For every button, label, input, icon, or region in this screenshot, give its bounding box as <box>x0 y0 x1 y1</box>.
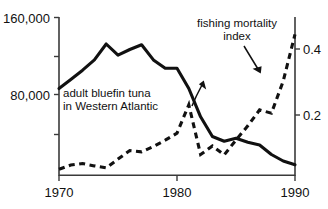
annotation-bluefin-tuna-line1: adult bluefin tuna <box>63 87 151 99</box>
x-axis-label-1990: 1990 <box>281 185 310 200</box>
annotation-bluefin-tuna-leader <box>192 85 202 106</box>
annotation-fishing-mortality-leader <box>244 46 258 69</box>
annotation-fishing-mortality-line1: fishing mortality <box>197 17 277 29</box>
y-axis-right-label-mid: 0.2 <box>303 108 321 123</box>
annotation-bluefin-tuna-line2: in Western Atlantic <box>63 100 158 112</box>
chart-canvas: 160,000 80,000 0.4 0.2 1970 1980 1990 ad… <box>0 0 328 209</box>
y-axis-right-label-top: 0.4 <box>303 42 321 57</box>
x-axis-label-1970: 1970 <box>45 185 74 200</box>
x-axis-label-1980: 1980 <box>163 185 192 200</box>
chart-container: 160,000 80,000 0.4 0.2 1970 1980 1990 ad… <box>0 0 328 209</box>
y-axis-left-label-mid: 80,000 <box>10 88 50 103</box>
y-axis-left-label-top: 160,000 <box>3 11 50 26</box>
annotation-fishing-mortality-line2: index <box>223 30 251 42</box>
